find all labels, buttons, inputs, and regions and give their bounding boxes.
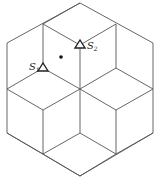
diagram-canvas: S1 S2 [0,0,159,179]
hexagon-tiling: S1 S2 [0,0,159,179]
sensor-s1-label: S1 [29,61,40,73]
tiling-lines [7,3,153,176]
source-point [59,55,63,59]
sensor-s2-triangle-icon [75,40,85,48]
sensor-s2-label: S2 [87,40,98,52]
